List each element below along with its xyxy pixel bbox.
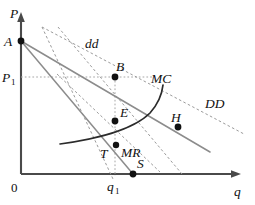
origin-label: 0 xyxy=(11,180,18,195)
point-s-marker xyxy=(130,171,137,178)
q1-label: q xyxy=(107,179,114,194)
mr-curve-label: MR xyxy=(120,145,141,160)
y-axis-arrowhead xyxy=(17,12,25,22)
x-axis-arrowhead xyxy=(231,170,241,178)
point-b-marker xyxy=(112,74,119,81)
point-e-label: E xyxy=(119,105,129,120)
x-axis-label: q xyxy=(234,184,241,199)
mr-dashed-line xyxy=(57,74,160,172)
point-a-marker xyxy=(18,38,25,45)
p1-label: P xyxy=(1,70,10,85)
q1-subscript: 1 xyxy=(115,186,120,196)
diagram-canvas: P q 0 A B E H T S P 1 q 1 dd DD MC MR xyxy=(0,0,255,205)
dd-curve-label: dd xyxy=(85,36,99,51)
labels-group: P q 0 A B E H T S P 1 q 1 dd DD MC MR xyxy=(1,6,241,199)
guide-lines-group xyxy=(21,77,152,176)
point-h-label: H xyxy=(170,110,182,125)
mc-curve-label: MC xyxy=(150,71,172,86)
point-t-label: T xyxy=(100,146,109,161)
y-axis-label: P xyxy=(9,6,18,21)
point-b-label: B xyxy=(116,59,124,74)
point-a-label: A xyxy=(3,34,13,49)
p1-subscript: 1 xyxy=(11,77,16,87)
point-t-marker xyxy=(113,142,119,148)
economics-diagram: P q 0 A B E H T S P 1 q 1 dd DD MC MR xyxy=(0,0,255,205)
DD-curve-label: DD xyxy=(204,96,225,111)
point-e-marker xyxy=(112,118,119,125)
